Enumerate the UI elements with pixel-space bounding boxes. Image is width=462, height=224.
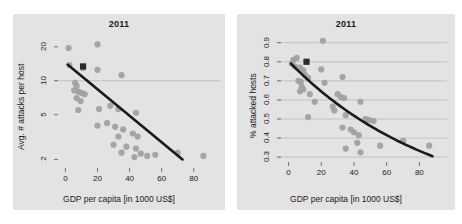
x-tick-label: 20	[88, 174, 108, 183]
y-tick-label: 0.7	[262, 72, 271, 88]
x-tick-label: 20	[311, 168, 331, 177]
x-tick-label: 0	[55, 174, 75, 183]
y-tick-label: 0.6	[262, 91, 271, 107]
x-tick-label: 40	[344, 168, 364, 177]
x-axis-label-right: GDP per capita [in 1000 US$]	[237, 194, 455, 204]
y-axis-label-right: % attacked hosts	[248, 73, 258, 138]
x-tick-label: 40	[120, 174, 140, 183]
y-tick-label: 0.3	[262, 149, 271, 165]
y-tick-label: 20	[39, 38, 48, 54]
x-tick-label: 0	[279, 168, 299, 177]
y-tick-label: 2	[39, 151, 48, 167]
y-tick-label: 5	[39, 106, 48, 122]
x-axis-label-left: GDP per capita [in 1000 US$]	[13, 194, 225, 204]
x-tick-label: 60	[377, 168, 397, 177]
x-tick-label: 80	[409, 168, 429, 177]
x-tick-label: 80	[184, 174, 204, 183]
y-axis-label-left: Avg. # attacks per host	[16, 64, 26, 150]
x-tick-label: 60	[152, 174, 172, 183]
y-tick-label: 0.9	[262, 34, 271, 50]
y-tick-label: 0.8	[262, 53, 271, 69]
y-tick-label: 10	[39, 72, 48, 88]
figure-container: 2011 GDP per capita [in 1000 US$] Avg. #…	[0, 0, 462, 224]
y-tick-label: 0.5	[262, 110, 271, 126]
y-tick-label: 0.4	[262, 130, 271, 146]
